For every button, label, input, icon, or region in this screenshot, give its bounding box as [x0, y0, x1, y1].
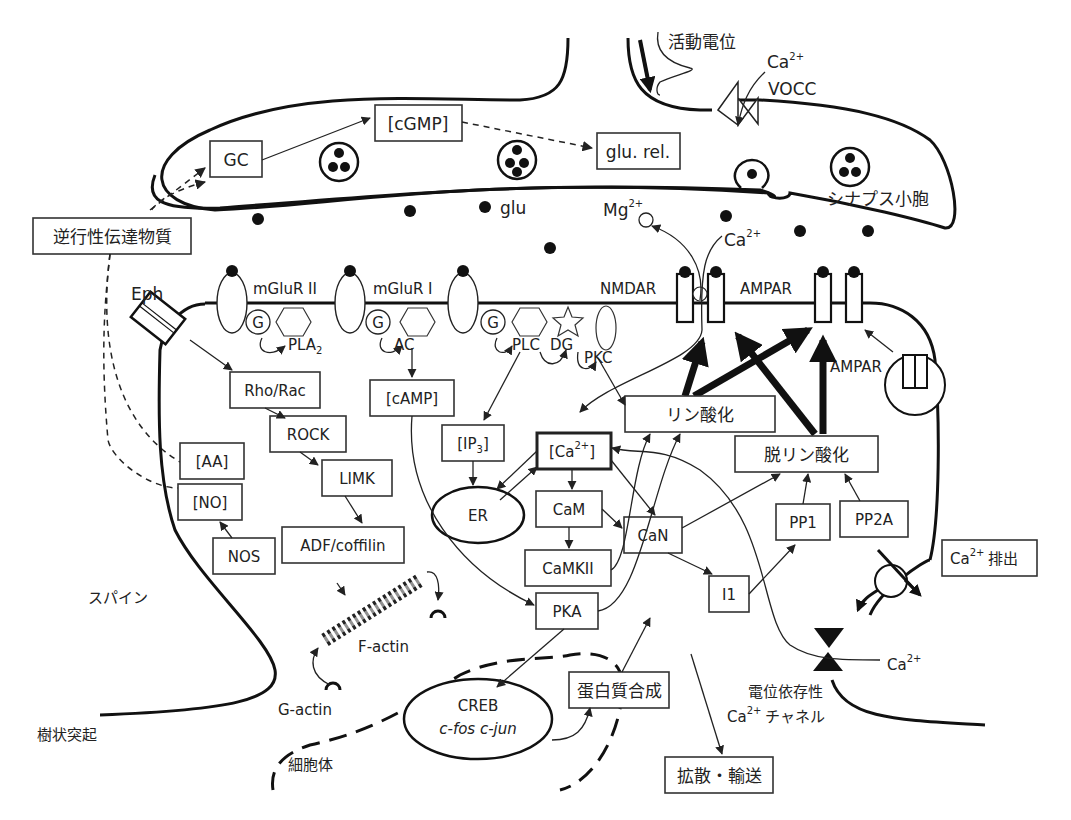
mglur-receptor-icon — [448, 265, 478, 333]
vdcc-lower-triangle-icon — [813, 652, 843, 671]
camkii-label: CaMKII — [542, 560, 593, 578]
glutamate-molecules — [252, 201, 874, 254]
f-actin-label: F-actin — [358, 638, 409, 656]
g-protein-icon: G — [246, 310, 270, 334]
limk-label: LIMK — [339, 470, 376, 488]
plc-label: PLC — [512, 336, 540, 354]
pkc-membrane-icon — [596, 306, 616, 350]
mg-label: Mg2+ — [603, 198, 643, 220]
pp2a-label: PP2A — [855, 511, 894, 529]
ca-cleft-label: Ca2+ — [724, 228, 761, 250]
cgmp-label: [cGMP] — [388, 114, 449, 134]
synaptic-vesicle-label: シナプス小胞 — [827, 189, 929, 209]
retrograde-messenger-label: 逆行性伝達物質 — [53, 227, 172, 247]
ca-influx-label: Ca2+ — [887, 653, 921, 674]
glu-release-label: glu. rel. — [606, 142, 670, 162]
nmdar-label: NMDAR — [600, 280, 656, 298]
action-potential-arrow — [640, 40, 650, 90]
synaptic-vesicle-icon — [320, 143, 358, 181]
adf-cofilin-label: ADF/coffilin — [300, 537, 385, 555]
g-protein-icon: G — [366, 310, 390, 334]
g-actin-monomer-icon — [431, 611, 445, 618]
spine-label: スパイン — [88, 589, 148, 607]
er-label: ER — [468, 507, 488, 525]
protein-synthesis-label: 蛋白質合成 — [577, 681, 662, 701]
vdcc-label-line1: 電位依存性 — [748, 683, 823, 701]
pp1-label: PP1 — [789, 514, 817, 532]
vocc-label: VOCC — [768, 79, 816, 99]
synaptic-vesicle-fusing-icon — [498, 141, 536, 179]
g-actin-label: G-actin — [278, 701, 332, 719]
gc-label: GC — [223, 150, 248, 170]
ampar-vesicle-icon — [885, 355, 945, 415]
ca-pump-icon — [858, 550, 920, 610]
cell-body-label: 細胞体 — [288, 756, 333, 774]
eph-label: Eph — [131, 284, 163, 304]
camp-label: [cAMP] — [386, 390, 438, 408]
svg-text:G: G — [487, 314, 499, 332]
creb-label: CREB — [458, 697, 499, 715]
aa-label: [AA] — [196, 453, 229, 471]
dg-label: DG — [550, 336, 573, 354]
can-label: CaN — [638, 527, 669, 545]
glu-label: glu — [500, 198, 526, 218]
ac-enzyme-icon — [400, 308, 435, 336]
mglur2-label: mGluR II — [253, 280, 317, 298]
rho-rac-label: Rho/Rac — [244, 382, 306, 400]
action-potential-label: 活動電位 — [668, 32, 736, 52]
plc-enzyme-icon — [512, 308, 547, 336]
f-actin-filament-icon — [325, 580, 420, 640]
synapse-diagram: GC [cGMP] glu. rel. 活動電位 Ca2+ VOCC シナプス小… — [0, 0, 1071, 820]
vdcc-label-line2: Ca2+チャネル — [727, 705, 825, 726]
mglur1-label: mGluR I — [373, 280, 433, 298]
nucleus-creb — [404, 679, 552, 759]
vdcc-upper-triangle-icon — [814, 628, 844, 648]
presynaptic-terminal: GC [cGMP] glu. rel. 活動電位 Ca2+ VOCC シナプス小… — [152, 32, 955, 228]
pla2-label: PLA2 — [288, 336, 322, 356]
genes-label: c-fos c-jun — [439, 720, 517, 738]
cam-label: CaM — [553, 501, 586, 519]
diffusion-transport-label: 拡散・輸送 — [677, 766, 762, 786]
ampar-label: AMPAR — [740, 280, 792, 298]
dephosphorylation-label: 脱リン酸化 — [764, 445, 849, 465]
rock-label: ROCK — [287, 426, 331, 444]
ampar-vesicle-label: AMPAR — [830, 358, 882, 376]
pka-label: PKA — [553, 603, 583, 621]
ampar-channel-icon — [815, 266, 862, 322]
no-label: [NO] — [193, 494, 228, 512]
ip3-label: [IP3] — [457, 435, 489, 455]
mg-ion-icon — [639, 213, 653, 227]
dg-star-icon — [553, 307, 583, 336]
g-protein-icon: G — [481, 310, 505, 334]
mglur-receptor-icon — [335, 265, 365, 333]
svg-text:G: G — [252, 314, 264, 332]
svg-text:G: G — [372, 314, 384, 332]
pla2-enzyme-icon — [276, 308, 311, 336]
i1-label: I1 — [722, 586, 736, 604]
synaptic-vesicle-icon — [831, 148, 869, 186]
phosphorylation-label: リン酸化 — [666, 405, 734, 425]
vocc-ca-label: Ca2+ — [767, 51, 804, 72]
nos-label: NOS — [228, 548, 261, 566]
synaptic-vesicle-exocytosis-icon — [735, 160, 768, 188]
mglur-receptor-icon — [217, 265, 247, 333]
dendrite-label: 樹状突起 — [37, 726, 97, 744]
